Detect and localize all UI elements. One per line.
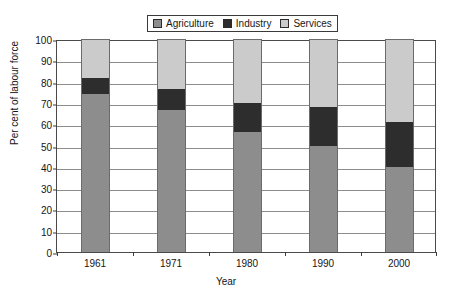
bar-series-container — [57, 41, 435, 252]
plot-area: 0102030405060708090100 19611971198019902… — [56, 40, 436, 253]
x-axis-title: Year — [0, 277, 452, 287]
bar-segment-services[interactable] — [81, 39, 110, 78]
bar-segment-industry[interactable] — [233, 103, 262, 132]
bar-stack[interactable] — [157, 39, 186, 252]
bar-segment-industry[interactable] — [309, 107, 338, 145]
legend-item-agriculture: Agriculture — [153, 19, 214, 29]
y-tick-label: 50 — [41, 143, 52, 153]
bar-segment-industry[interactable] — [385, 122, 414, 167]
legend-swatch-agriculture — [153, 19, 162, 28]
bar-segment-agriculture[interactable] — [309, 146, 338, 253]
y-tick-label: 10 — [41, 228, 52, 238]
y-tick-label: 30 — [41, 185, 52, 195]
bar-segment-industry[interactable] — [157, 89, 186, 110]
y-tick-label: 90 — [41, 57, 52, 67]
x-tick-label: 2000 — [388, 259, 410, 269]
x-tick-label: 1961 — [84, 259, 106, 269]
y-tick-label: 0 — [46, 249, 52, 259]
x-tick-mark — [361, 252, 362, 256]
y-tick-label: 20 — [41, 206, 52, 216]
bar-segment-services[interactable] — [157, 39, 186, 89]
legend-label-services: Services — [293, 19, 331, 29]
legend-swatch-industry — [223, 19, 232, 28]
x-tick-label: 1980 — [236, 259, 258, 269]
x-tick-mark — [209, 252, 210, 256]
y-tick-label: 80 — [41, 79, 52, 89]
bar-segment-agriculture[interactable] — [157, 110, 186, 252]
bar-stack[interactable] — [81, 39, 110, 252]
y-axis-title: Per cent of labour force — [10, 41, 20, 145]
x-tick-label: 1971 — [160, 259, 182, 269]
bar-segment-industry[interactable] — [81, 78, 110, 94]
y-tick-label: 100 — [35, 36, 52, 46]
chart-canvas: Agriculture Industry Services Per cent o… — [0, 0, 452, 299]
bar-segment-agriculture[interactable] — [233, 132, 262, 252]
bar-segment-services[interactable] — [385, 39, 414, 122]
y-tick-label: 40 — [41, 164, 52, 174]
x-tick-label: 1990 — [312, 259, 334, 269]
legend-label-industry: Industry — [236, 19, 272, 29]
chart-legend: Agriculture Industry Services — [147, 15, 338, 32]
x-tick-mark — [133, 252, 134, 256]
bar-segment-agriculture[interactable] — [385, 167, 414, 252]
x-tick-mark — [285, 252, 286, 256]
bar-stack[interactable] — [233, 39, 262, 252]
y-tick-label: 60 — [41, 121, 52, 131]
legend-label-agriculture: Agriculture — [166, 19, 214, 29]
x-tick-mark — [436, 252, 437, 256]
x-tick-mark — [57, 252, 58, 256]
legend-item-industry: Industry — [223, 19, 272, 29]
bar-segment-agriculture[interactable] — [81, 94, 110, 252]
legend-swatch-services — [280, 19, 289, 28]
y-tick-label: 70 — [41, 100, 52, 110]
bar-stack[interactable] — [385, 39, 414, 252]
legend-item-services: Services — [280, 19, 331, 29]
bar-stack[interactable] — [309, 39, 338, 252]
bar-segment-services[interactable] — [309, 39, 338, 107]
bar-segment-services[interactable] — [233, 39, 262, 103]
